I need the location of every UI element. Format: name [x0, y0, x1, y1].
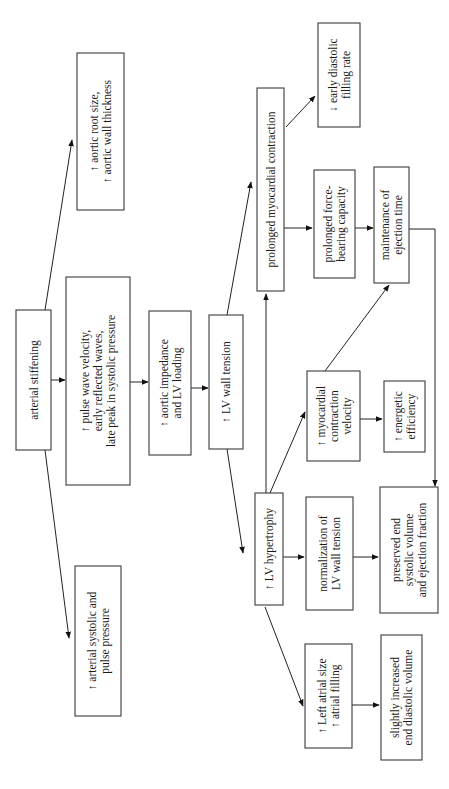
node-label-line: prolonged myocardial contraction: [265, 111, 278, 267]
node-label-line: slightly increased: [389, 657, 402, 738]
node-label-line: ↓ early diastolic: [327, 38, 340, 111]
node-preserved-esv: preserved endsystolic volumeand ejection…: [380, 487, 438, 613]
node-label-line: ↑ aortic impedance: [158, 339, 171, 427]
node-label: normalization ofLV wall tension: [317, 515, 342, 591]
node-label-line: ↑ myocardial: [315, 386, 328, 446]
node-arterial-pressure: ↑ arterial systolic andpulse pressure: [75, 566, 121, 716]
nodes-layer: arterial stiffening↑ arterial systolic a…: [16, 23, 438, 760]
node-label: arterial stiffening: [28, 340, 41, 420]
edge-contraction-velocity-to-ejection-time: [325, 285, 389, 371]
node-lv-hypertrophy: ↑ LV hypertrophy: [255, 493, 283, 605]
node-label-line: early reflected waves,: [92, 331, 105, 432]
node-energetic-efficiency: ↑ energeticefficiency: [384, 381, 425, 452]
node-label-line: ↑ arterial systolic and: [86, 591, 99, 690]
edge-lv-hypertrophy-to-left-atrial: [265, 607, 303, 706]
node-label-line: velocity: [341, 397, 354, 434]
node-label-line: ↑ LV hypertrophy: [263, 508, 276, 590]
node-label-line: contraction: [328, 390, 340, 442]
node-prolonged-contraction: prolonged myocardial contraction: [257, 88, 284, 291]
node-label-line: late peak in systolic pressure: [105, 315, 118, 447]
node-force-bearing: prolonged force-bearing capacity: [314, 170, 355, 278]
node-label-line: preserved end: [390, 518, 403, 582]
edge-prolonged-contraction-to-early-diastolic: [286, 96, 315, 127]
node-label: ↑ pulse wave velocity,early reflected wa…: [79, 315, 118, 447]
node-pulse-wave: ↑ pulse wave velocity,early reflected wa…: [66, 277, 130, 485]
node-label-line: bearing capacity: [335, 186, 348, 262]
node-edv: slightly increasedend diastolic volume: [381, 635, 422, 760]
node-label-line: ↑ aortic root size,: [88, 91, 101, 171]
node-arterial-stiffening: arterial stiffening: [16, 310, 51, 450]
node-aortic-root: ↑ aortic root size,↑ aortic wall thickne…: [77, 53, 124, 210]
node-label-line: ↑ Left atrial size: [316, 658, 328, 733]
node-label: ↑ energeticefficiency: [392, 391, 418, 442]
node-label-line: ↑ energetic: [392, 391, 405, 442]
node-label: ↑ aortic impedanceand LV loading: [158, 339, 184, 427]
node-label: ↑ aortic root size,↑ aortic wall thickne…: [88, 79, 113, 183]
node-label: ↑ Left atrial size↑ atrial filling: [316, 658, 342, 733]
node-label-line: pulse pressure: [99, 608, 112, 673]
edge-arterial-stiffening-to-arterial-pressure: [45, 450, 69, 638]
node-label: slightly increasedend diastolic volume: [389, 650, 414, 746]
node-contraction-velocity: ↑ myocardialcontractionvelocity: [307, 371, 360, 461]
flow-diagram: arterial stiffening↑ arterial systolic a…: [0, 0, 449, 789]
node-label-line: end diastolic volume: [402, 650, 414, 746]
edge-lv-wall-tension-to-prolonged-contraction: [227, 182, 251, 315]
node-label: prolonged myocardial contraction: [265, 111, 278, 267]
node-label-line: ejection time: [392, 195, 405, 255]
node-label: maintenance ofejection time: [379, 190, 405, 261]
node-label: ↑ LV hypertrophy: [263, 508, 276, 590]
node-label: ↑ LV wall tension: [220, 341, 232, 423]
node-aortic-impedance: ↑ aortic impedanceand LV loading: [149, 311, 191, 455]
node-label-line: and LV loading: [171, 347, 184, 418]
node-ejection-time: maintenance ofejection time: [374, 167, 409, 283]
node-early-diastolic: ↓ early diastolicfilling rate: [318, 23, 360, 127]
node-label-line: normalization of: [317, 515, 329, 591]
node-normalization: normalization ofLV wall tension: [306, 497, 353, 610]
node-label-line: efficiency: [405, 393, 418, 439]
node-label-line: LV wall tension: [330, 517, 342, 590]
node-lv-wall-tension: ↑ LV wall tension: [209, 315, 243, 449]
edge-lv-hypertrophy-to-contraction-velocity: [270, 412, 305, 493]
node-label-line: filling rate: [340, 51, 353, 99]
node-label-line: ↑ aortic wall thickness: [101, 79, 113, 183]
node-label-line: ↑ atrial filling: [329, 664, 342, 727]
node-label-line: and ejection fraction: [416, 502, 429, 597]
node-label-line: systolic volume: [403, 514, 416, 587]
node-label-line: ↑ LV wall tension: [220, 341, 232, 423]
node-left-atrial: ↑ Left atrial size↑ atrial filling: [305, 644, 352, 748]
edge-lv-wall-tension-to-lv-hypertrophy: [227, 449, 243, 553]
node-label: prolonged force-bearing capacity: [322, 185, 348, 262]
node-label-line: prolonged force-: [322, 185, 335, 262]
node-label-line: ↑ pulse wave velocity,: [79, 330, 92, 432]
node-label-line: arterial stiffening: [28, 340, 41, 420]
node-label-line: maintenance of: [379, 190, 391, 261]
